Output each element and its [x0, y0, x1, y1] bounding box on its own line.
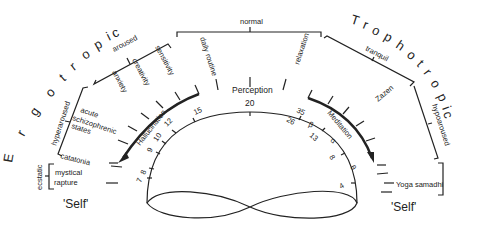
ergotropic-title: E r g o t r o p i c — [0, 24, 121, 163]
svg-text:13: 13 — [308, 131, 320, 143]
svg-text:T: T — [349, 12, 361, 29]
svg-text:c: c — [109, 24, 121, 41]
svg-text:hyperaroused: hyperaroused — [49, 100, 72, 146]
svg-text:o: o — [78, 46, 92, 62]
svg-text:p: p — [382, 29, 396, 46]
svg-text:20: 20 — [245, 98, 255, 108]
svg-text:hypoaroused: hypoaroused — [430, 103, 452, 147]
svg-text:sensitivity: sensitivity — [153, 44, 176, 77]
svg-text:r: r — [13, 127, 29, 138]
meditation-arc: Meditation — [308, 90, 394, 192]
svg-text:relaxation: relaxation — [292, 32, 311, 66]
svg-text:r: r — [67, 58, 80, 73]
svg-text:p: p — [91, 36, 105, 53]
svg-text:normal: normal — [240, 17, 263, 26]
hyperaroused-bracket: hyperaroused acute schizophrenic states … — [49, 87, 118, 168]
svg-text:θ: θ — [348, 164, 358, 172]
svg-text:9: 9 — [145, 146, 155, 154]
lemniscate — [147, 191, 357, 218]
svg-text:15: 15 — [192, 105, 203, 117]
svg-text:p: p — [434, 91, 451, 104]
svg-text:tranquil: tranquil — [364, 44, 390, 64]
aroused-bracket: aroused anxiety creativity sensitivity — [94, 33, 177, 94]
svg-text:daily routine: daily routine — [198, 36, 219, 77]
svg-text:10: 10 — [151, 131, 163, 143]
svg-text:t: t — [414, 57, 428, 70]
svg-text:Zazen: Zazen — [374, 83, 396, 103]
perception-label: Perception — [232, 85, 273, 95]
inner-dome: 7 8 9 10 12 15 20 35 β α θ 26 13 8 4 — [134, 98, 358, 203]
svg-text:α: α — [329, 136, 339, 146]
self-left-label: 'Self' — [63, 197, 88, 211]
svg-text:o: o — [370, 22, 383, 39]
ecstatic-bracket: ecstatic mystical rapture — [35, 164, 82, 190]
samadhi-bracket: Yoga samadhi — [396, 163, 444, 195]
svg-text:g: g — [26, 104, 42, 119]
svg-text:o: o — [42, 85, 58, 100]
svg-text:7: 7 — [134, 177, 144, 184]
svg-text:creativity: creativity — [130, 57, 152, 88]
cartography-of-consciousness-diagram: E r g o t r o p i c T r o p h o t r o p … — [0, 0, 478, 226]
self-right-label: 'Self' — [391, 200, 416, 214]
svg-text:anxiety: anxiety — [110, 69, 129, 94]
trophotropic-title: T r o p h o t r o p i c — [349, 12, 457, 121]
svg-text:35: 35 — [295, 106, 306, 118]
svg-text:Yoga samadhi: Yoga samadhi — [396, 180, 444, 189]
normal-bracket: normal daily routine relaxation — [177, 17, 321, 90]
svg-text:o: o — [427, 77, 444, 91]
svg-text:catatonia: catatonia — [60, 151, 93, 167]
svg-text:E: E — [0, 152, 16, 163]
svg-text:r: r — [421, 66, 436, 79]
svg-text:8: 8 — [327, 153, 337, 162]
svg-text:rapture: rapture — [54, 178, 78, 187]
svg-text:ecstatic: ecstatic — [35, 164, 44, 190]
svg-text:t: t — [56, 70, 69, 84]
svg-text:h: h — [393, 37, 408, 53]
svg-text:26: 26 — [285, 115, 297, 127]
svg-text:8: 8 — [138, 169, 148, 176]
svg-text:r: r — [361, 17, 371, 33]
svg-text:mystical: mystical — [55, 168, 82, 177]
svg-text:4: 4 — [338, 181, 346, 191]
svg-text:o: o — [404, 47, 419, 63]
